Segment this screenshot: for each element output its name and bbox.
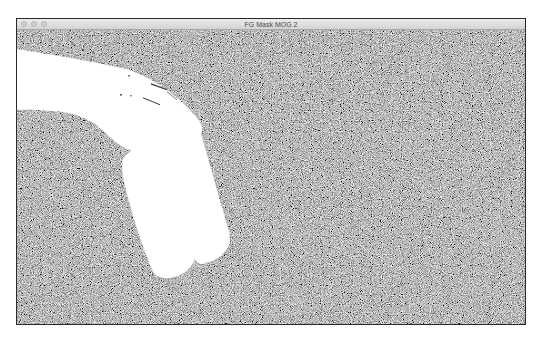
fg-mask-window: FG Mask MOG 2 (16, 18, 526, 325)
title-bar[interactable]: FG Mask MOG 2 (17, 19, 525, 30)
foreground-mask-image (17, 30, 525, 324)
window-title: FG Mask MOG 2 (17, 19, 525, 30)
mask-image-view (17, 30, 525, 324)
